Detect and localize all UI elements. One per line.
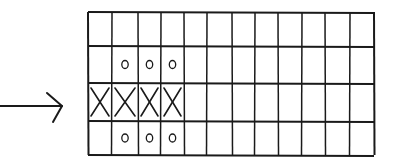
o-mark-icon	[122, 61, 128, 69]
arrow-head	[47, 93, 62, 122]
o-mark-icon	[122, 134, 128, 142]
x-mark-icon	[91, 88, 109, 116]
grid-row-line	[88, 121, 374, 122]
o-mark-icon	[146, 134, 152, 142]
o-mark-icon	[169, 61, 175, 69]
grid	[88, 12, 375, 156]
o-mark-icon	[146, 61, 152, 69]
x-mark-icon	[115, 88, 135, 116]
grid-row-line	[88, 155, 374, 156]
grid-row-line	[88, 12, 374, 13]
marks	[91, 61, 181, 143]
grid-row-line	[88, 83, 374, 84]
arrow-icon	[0, 93, 62, 122]
o-mark-icon	[169, 134, 175, 142]
x-mark-icon	[164, 88, 181, 116]
diagram-canvas	[0, 0, 393, 164]
grid-row-line	[88, 46, 374, 47]
grid-col-line	[374, 12, 375, 155]
x-mark-icon	[141, 88, 158, 116]
